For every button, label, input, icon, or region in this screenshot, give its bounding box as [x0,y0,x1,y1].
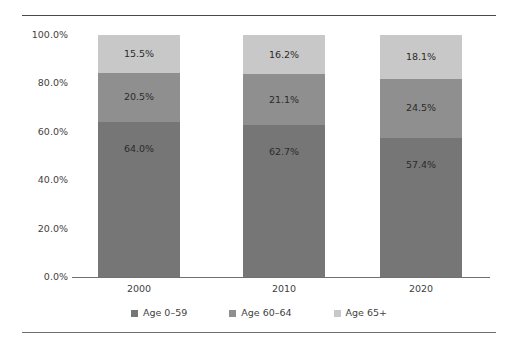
legend-item[interactable]: Age 60–64 [229,308,291,318]
y-axis-tick-label: 20.0% [8,224,68,234]
bar-segment-value-label: 15.5% [124,49,154,59]
stacked-bar-chart-figure: 100.0%80.0%60.0%40.0%20.0%0.0% 15.5%20.5… [0,0,518,350]
bar-2000[interactable]: 15.5%20.5%64.0% [98,35,180,277]
y-axis-tick-label: 0.0% [8,272,68,282]
plot-area: 15.5%20.5%64.0%16.2%21.1%62.7%18.1%24.5%… [72,35,490,277]
legend-item[interactable]: Age 65+ [334,308,387,318]
bar-segment-value-label: 18.1% [406,52,436,62]
x-axis-tick-label: 2020 [380,283,462,294]
top-divider-rule [22,15,496,16]
bar-segment-value-label: 21.1% [269,95,299,105]
legend-swatch-icon [229,310,236,317]
x-axis-tick-label: 2010 [243,283,325,294]
x-axis-tick-label: 2000 [98,283,180,294]
bar-2010[interactable]: 16.2%21.1%62.7% [243,35,325,277]
bar-segment-value-label: 24.5% [406,103,436,113]
chart-legend: Age 0–59Age 60–64Age 65+ [0,308,518,318]
bar-segment[interactable]: 18.1% [380,35,462,79]
legend-label: Age 60–64 [241,308,291,318]
bar-segment[interactable]: 57.4% [380,138,462,277]
x-axis-baseline [72,277,490,278]
bar-segment[interactable]: 62.7% [243,125,325,277]
bar-segment-value-label: 20.5% [124,92,154,102]
legend-label: Age 65+ [346,308,387,318]
bar-segment[interactable]: 21.1% [243,74,325,125]
legend-label: Age 0–59 [143,308,187,318]
bar-2020[interactable]: 18.1%24.5%57.4% [380,35,462,277]
bar-segment[interactable]: 64.0% [98,122,180,277]
bar-segment-value-label: 16.2% [269,50,299,60]
legend-swatch-icon [334,310,341,317]
y-axis-tick-label: 40.0% [8,175,68,185]
bar-segment-value-label: 57.4% [406,160,436,170]
bar-segment[interactable]: 15.5% [98,35,180,73]
bar-segment-value-label: 62.7% [269,147,299,157]
bar-segment[interactable]: 24.5% [380,79,462,138]
legend-item[interactable]: Age 0–59 [131,308,187,318]
bottom-divider-rule [22,332,496,333]
y-axis: 100.0%80.0%60.0%40.0%20.0%0.0% [0,0,68,350]
legend-swatch-icon [131,310,138,317]
bar-segment-value-label: 64.0% [124,144,154,154]
y-axis-tick-label: 80.0% [8,78,68,88]
bar-segment[interactable]: 16.2% [243,35,325,74]
y-axis-tick-label: 60.0% [8,127,68,137]
bar-segment[interactable]: 20.5% [98,73,180,123]
y-axis-tick-label: 100.0% [8,30,68,40]
